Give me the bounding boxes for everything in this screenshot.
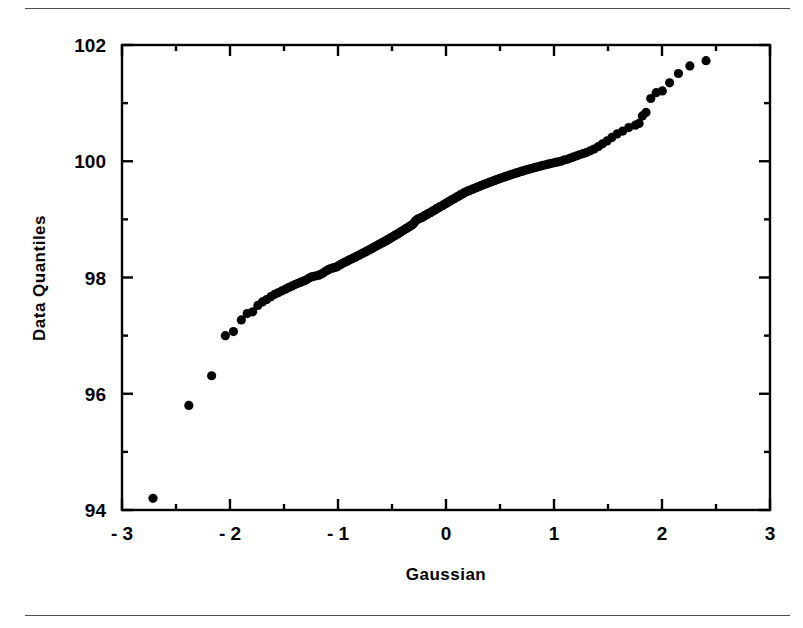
data-point — [665, 78, 674, 87]
y-tick-label: 96 — [85, 384, 106, 405]
y-axis-ticks — [122, 45, 770, 510]
y-axis-title: Data Quantiles — [30, 215, 49, 341]
x-axis-ticks — [122, 45, 770, 510]
bottom-horizontal-rule — [25, 615, 790, 616]
data-point — [184, 401, 193, 410]
data-point — [674, 69, 683, 78]
data-point — [641, 108, 650, 117]
x-tick-label: 1 — [549, 523, 560, 544]
data-point — [229, 327, 238, 336]
y-tick-label: 102 — [74, 35, 106, 56]
data-point — [658, 86, 667, 95]
x-tick-label: 0 — [441, 523, 452, 544]
scatter-series — [148, 56, 710, 503]
data-point — [148, 494, 157, 503]
y-tick-label: 100 — [74, 151, 106, 172]
y-axis-tick-labels: 949698100102 — [74, 35, 106, 521]
top-horizontal-rule — [25, 8, 790, 9]
x-tick-label: - 3 — [111, 523, 133, 544]
x-tick-label: 3 — [765, 523, 776, 544]
y-tick-label: 98 — [85, 268, 106, 289]
figure-container: - 3- 2- 10123 949698100102 Gaussian Data… — [0, 0, 803, 628]
x-tick-label: 2 — [657, 523, 668, 544]
plot-frame — [122, 45, 770, 510]
x-tick-label: - 1 — [327, 523, 350, 544]
qq-plot: - 3- 2- 10123 949698100102 Gaussian Data… — [0, 0, 803, 628]
x-tick-label: - 2 — [219, 523, 241, 544]
x-axis-title: Gaussian — [406, 565, 487, 584]
data-point — [207, 371, 216, 380]
data-point — [701, 56, 710, 65]
data-point — [221, 331, 230, 340]
y-tick-label: 94 — [85, 500, 107, 521]
data-point — [685, 61, 694, 70]
x-axis-tick-labels: - 3- 2- 10123 — [111, 523, 775, 544]
